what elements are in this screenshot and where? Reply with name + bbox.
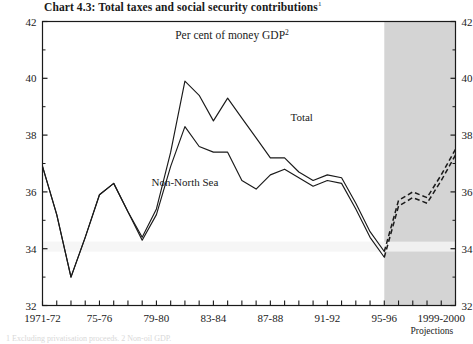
y-axis-tick-label-right: 36	[462, 186, 473, 198]
x-axis-tick-label: 91-92	[314, 312, 340, 324]
y-axis-tick-label-right: 42	[462, 16, 473, 28]
chart-subtitle-superscript: 2	[285, 28, 289, 37]
chart-plot-wrapper: 3232343436363838404042421971-7275-7679-8…	[0, 0, 473, 344]
x-axis-label-group: 1971-7275-7679-8083-8487-8891-9295-96199…	[24, 312, 465, 324]
x-axis-tick-label: 83-84	[201, 312, 227, 324]
projection-band	[384, 22, 455, 306]
y-axis-tick-label-right: 32	[462, 300, 473, 312]
chart-subtitle: Per cent of money GDP2	[175, 28, 289, 42]
y-axis-tick-label: 40	[26, 72, 38, 84]
x-axis-tick-label: 79-80	[144, 312, 170, 324]
chart-figure: Chart 4.3: Total taxes and social securi…	[0, 0, 473, 344]
chart-svg: 3232343436363838404042421971-7275-7679-8…	[0, 0, 473, 344]
projections-caption: Projections	[411, 326, 454, 336]
y-axis-tick-label: 36	[26, 186, 38, 198]
chart-subtitle-text: Per cent of money GDP	[175, 29, 285, 42]
x-axis-tick-label: 87-88	[258, 312, 284, 324]
y-axis-tick-label-right: 40	[462, 72, 473, 84]
x-axis-tick-label: 75-76	[87, 312, 113, 324]
series-annotation-label: Non-North Sea	[151, 176, 218, 188]
y-axis-tick-label-right: 34	[462, 243, 473, 255]
y-axis-tick-label: 38	[26, 129, 38, 141]
y-axis-tick-label: 32	[26, 300, 37, 312]
x-axis-tick-label: 1999-2000	[417, 312, 465, 324]
y-axis-tick-label: 42	[26, 16, 37, 28]
series-annotation-label: Total	[290, 111, 312, 123]
y-axis-tick-label: 34	[26, 243, 38, 255]
chart-footnote: 1 Excluding privatisation proceeds. 2 No…	[6, 334, 171, 343]
x-axis-tick-label: 1971-72	[24, 312, 61, 324]
series-line-historic	[43, 127, 385, 278]
x-axis-tick-label: 95-96	[371, 312, 397, 324]
y-axis-tick-label-right: 38	[462, 129, 473, 141]
scan-artifact-band	[43, 242, 456, 252]
